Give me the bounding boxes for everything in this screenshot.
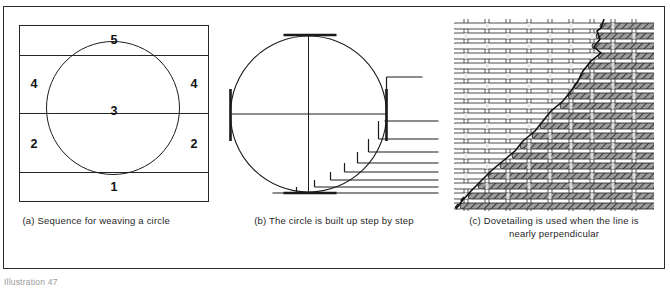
- panel-b: (b) The circle is built up step by step: [224, 7, 444, 268]
- band-number-4-left: 4: [31, 77, 38, 91]
- sequence-grid: 5 4 4 3 2 2 1: [19, 25, 209, 202]
- band-number-2-left: 2: [31, 137, 38, 151]
- panel-a: 5 4 4 3 2 2 1 (a) Sequence for weaving a…: [4, 7, 224, 268]
- diagram-dovetailing-weave: [444, 7, 664, 215]
- band-number-4-right: 4: [191, 77, 198, 91]
- weave-graphic: [454, 19, 654, 211]
- step-circle-graphic: [227, 17, 442, 212]
- band-number-5: 5: [111, 33, 118, 47]
- panel-c: (c) Dovetailing is used when the line is…: [444, 7, 664, 268]
- band-number-3-center: 3: [111, 104, 118, 118]
- band-number-1: 1: [111, 180, 118, 194]
- caption-a: (a) Sequence for weaving a circle: [16, 215, 211, 228]
- caption-c: (c) Dovetailing is used when the line is…: [459, 215, 648, 240]
- caption-b: (b) The circle is built up step by step: [239, 215, 428, 228]
- illustration-page: 5 4 4 3 2 2 1 (a) Sequence for weaving a…: [0, 0, 670, 292]
- diagram-sequence-for-weaving-a-circle: 5 4 4 3 2 2 1: [4, 7, 224, 215]
- band-number-2-right: 2: [191, 137, 198, 151]
- illustration-label: Illustration 47: [4, 277, 58, 287]
- figure-frame: 5 4 4 3 2 2 1 (a) Sequence for weaving a…: [3, 6, 665, 269]
- panel-row: 5 4 4 3 2 2 1 (a) Sequence for weaving a…: [4, 7, 664, 268]
- diagram-circle-built-step-by-step: [224, 7, 444, 215]
